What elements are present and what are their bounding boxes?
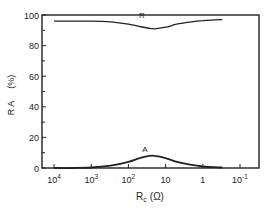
x-tick-label: 10-1 xyxy=(232,173,248,185)
x-tick-label: 10 xyxy=(161,175,171,185)
x-axis-label: Rc(Ω) xyxy=(136,191,164,203)
y-tick-label: 80 xyxy=(29,41,39,51)
y-tick-label: 20 xyxy=(29,133,39,143)
series-r-line xyxy=(54,20,222,29)
x-axis-label-sub: c xyxy=(143,196,147,203)
line-chart: 020406080100 10410310210110-1 RA R A (%)… xyxy=(0,0,271,209)
svg-text:R A (%): R A (%) xyxy=(6,75,16,116)
series-layer: RA xyxy=(54,11,222,168)
chart-container: 020406080100 10410310210110-1 RA R A (%)… xyxy=(0,0,271,209)
y-axis-label: R A (%) xyxy=(6,75,16,116)
x-tick-label: 102 xyxy=(122,173,136,185)
x-tick-label: 103 xyxy=(84,173,98,185)
x-tick-label: 1 xyxy=(200,175,205,185)
x-tick-label: 104 xyxy=(47,173,61,185)
series-r-label: R xyxy=(139,11,145,20)
y-axis-label-unit: (%) xyxy=(6,75,16,89)
y-axis-label-letters: R A xyxy=(6,101,16,116)
series-a-label: A xyxy=(142,145,148,154)
y-tick-label: 100 xyxy=(24,11,39,21)
x-axis-label-unit: (Ω) xyxy=(150,191,164,202)
y-tick-label: 40 xyxy=(29,102,39,112)
series-a-line xyxy=(54,156,222,168)
plot-frame xyxy=(42,15,259,168)
y-tick-label: 60 xyxy=(29,72,39,82)
y-tick-label: 0 xyxy=(34,164,39,174)
x-axis-label-main: R xyxy=(136,191,143,202)
